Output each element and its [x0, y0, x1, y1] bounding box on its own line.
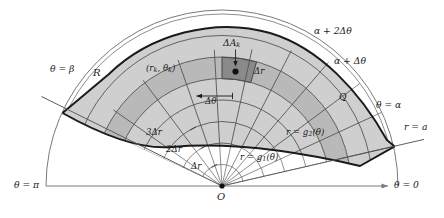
sample-point-dot: [232, 68, 238, 74]
label-g1-tail: (θ): [266, 152, 278, 162]
label-delta-area: ΔAk: [223, 38, 240, 49]
label-delta-area-subscript: k: [236, 41, 240, 49]
label-delta-r-axis: Δr: [191, 162, 201, 171]
label-theta-alpha: θ = α: [376, 100, 401, 109]
figure-canvas: θ = β θ = α θ = π θ = 0 α + Δθ α + 2Δθ R…: [0, 0, 444, 218]
label-delta-r-cell: Δr: [254, 67, 264, 76]
label-sample-point: (rk, θk): [146, 64, 175, 74]
label-sample-tail: ): [172, 63, 175, 73]
label-alpha-plus-2-delta-theta: α + 2Δθ: [314, 26, 352, 35]
origin-dot: [219, 183, 224, 188]
label-sample-mid: , θ: [157, 63, 168, 73]
label-region-R: R: [93, 68, 101, 78]
label-g2-tail: (θ): [312, 127, 324, 137]
label-2-delta-r: 2Δr: [166, 145, 182, 154]
label-alpha-plus-delta-theta: α + Δθ: [334, 56, 366, 65]
label-r-equals-g1: r = g1(θ): [240, 153, 278, 163]
label-g2-head: r = g: [286, 127, 308, 137]
label-g1-head: r = g: [240, 152, 262, 162]
label-theta-beta: θ = β: [50, 64, 74, 73]
label-delta-theta: Δθ: [205, 97, 216, 106]
label-delta-area-head: ΔA: [223, 37, 236, 48]
label-theta-pi: θ = π: [14, 180, 39, 189]
label-point-Q: Q: [339, 92, 347, 101]
polar-axis-line: [46, 183, 388, 188]
label-r-equals-g2: r = g2(θ): [286, 128, 324, 138]
label-r-equals-a: r = a: [404, 122, 427, 131]
label-theta-zero: θ = 0: [394, 180, 419, 189]
label-origin-O: O: [217, 192, 225, 202]
label-3-delta-r: 3Δr: [146, 128, 162, 137]
